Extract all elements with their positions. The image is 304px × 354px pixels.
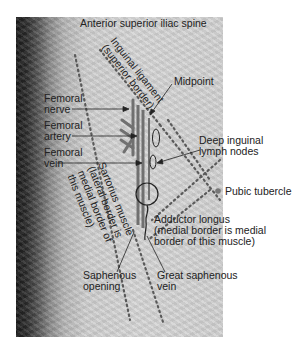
great-saphenous-vein (145, 205, 148, 240)
label-femoral-artery-2: artery (44, 130, 72, 142)
femoral-triangle-figure: Anterior superior iliac spine Inguinal l… (0, 0, 304, 354)
lymph-node-upper (153, 129, 160, 147)
label-femoral-vein-2: vein (44, 157, 63, 169)
annotation-overlay: Anterior superior iliac spine Inguinal l… (0, 0, 304, 354)
pubic-tubercle-marker (215, 188, 221, 194)
label-adductor-3: border of this muscle) (154, 235, 255, 247)
lymph-node-lower (150, 155, 156, 169)
label-asis: Anterior superior iliac spine (80, 17, 207, 29)
fem-nerve-arrow (123, 107, 129, 112)
label-deep-nodes-2: lymph nodes (199, 145, 259, 157)
midpoint-arrow (150, 109, 155, 115)
saph-opening-leader (117, 232, 134, 272)
lymph-nodes-arrow (157, 159, 163, 164)
label-gsv-2: vein (157, 280, 176, 292)
label-saphenous-opening-2: opening (83, 280, 121, 292)
label-midpoint: Midpoint (174, 75, 214, 87)
label-femoral-nerve-2: nerve (44, 103, 70, 115)
label-pubic-tubercle: Pubic tubercle (225, 185, 292, 197)
